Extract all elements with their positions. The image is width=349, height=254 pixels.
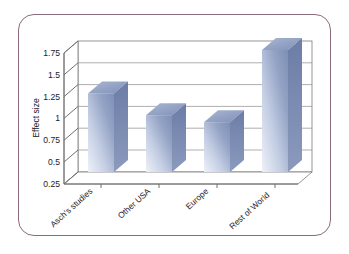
x-tick-label-europe: Europe: [184, 186, 211, 212]
x-tick-label-rest-of-world: Rest of World: [227, 190, 272, 232]
x-axis: [64, 184, 298, 188]
y-tick-label: 1: [55, 113, 60, 123]
x-tick-label-asch-studies: Asch's studies: [48, 186, 94, 229]
bar-side-face: [172, 103, 186, 172]
y-tick-label: 1.75: [43, 48, 60, 58]
y-tick-labels: 1.75 1.5 1.25 1 0.75 0.5 0.25: [43, 48, 60, 189]
bar-front-face: [146, 115, 172, 172]
bar-rest-of-world[interactable]: [262, 38, 302, 172]
y-tick-label: 0.5: [48, 157, 60, 167]
chart-svg: 1.75 1.5 1.25 1 0.75 0.5 0.25 Effect siz…: [0, 0, 349, 254]
bar-front-face: [204, 122, 230, 172]
bar-chart: 1.75 1.5 1.25 1 0.75 0.5 0.25 Effect siz…: [0, 0, 349, 254]
x-tick-labels: Asch's studies Other USA Europe Rest of …: [48, 186, 272, 232]
bar-side-face: [288, 38, 302, 172]
bar-europe[interactable]: [204, 110, 244, 172]
y-axis-title-text: Effect size: [31, 98, 41, 138]
x-tick-label-other-usa: Other USA: [116, 186, 153, 221]
plot-floor: [64, 172, 312, 184]
bar-side-face: [114, 81, 128, 172]
y-tick-label: 1.5: [48, 70, 60, 80]
bar-asch-studies[interactable]: [88, 81, 128, 172]
y-tick-label: 0.75: [43, 135, 60, 145]
bar-front-face: [262, 50, 288, 172]
y-tick-label: 0.25: [43, 179, 60, 189]
y-tick-label: 1.25: [43, 92, 60, 102]
bar-other-usa[interactable]: [146, 103, 186, 172]
y-axis-title: Effect size: [31, 98, 41, 138]
bar-front-face: [88, 93, 114, 172]
